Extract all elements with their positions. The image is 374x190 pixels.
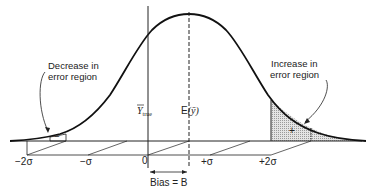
y-true-label: Ytrue bbox=[137, 105, 152, 117]
plane-slant-zero bbox=[148, 141, 189, 155]
tick-minus-sigma: −σ bbox=[80, 156, 93, 167]
increase-error-region bbox=[271, 100, 356, 141]
increase-leader-arrow bbox=[305, 80, 327, 122]
expected-value-label: E(ȳ) bbox=[181, 105, 199, 117]
bias-arrowhead-left bbox=[150, 170, 155, 174]
minus-sign: − bbox=[54, 131, 60, 142]
bias-label: Bias = B bbox=[150, 177, 188, 188]
plus-sign: + bbox=[289, 125, 295, 136]
decrease-leader-head bbox=[45, 127, 50, 133]
plane-slant-minus1 bbox=[88, 141, 127, 155]
decrease-label-line2: error region bbox=[48, 71, 97, 82]
plane-slant-plus1 bbox=[210, 141, 250, 155]
increase-label-line2: error region bbox=[270, 69, 319, 80]
decrease-leader-arrow bbox=[40, 72, 48, 131]
plane-slant-minus2 bbox=[27, 141, 66, 155]
bias-normal-curve-diagram: Decrease in error region Increase in err… bbox=[0, 0, 374, 190]
plane-slant-plus2 bbox=[271, 141, 311, 155]
bias-arrowhead-right bbox=[182, 170, 187, 174]
increase-label-line1: Increase in bbox=[271, 58, 317, 69]
tick-plus-sigma: +σ bbox=[201, 156, 214, 167]
tick-zero: 0 bbox=[142, 155, 148, 166]
decrease-label-line1: Decrease in bbox=[48, 60, 99, 71]
tick-plus-2sigma: +2σ bbox=[259, 156, 277, 167]
tick-minus-2sigma: −2σ bbox=[15, 156, 33, 167]
